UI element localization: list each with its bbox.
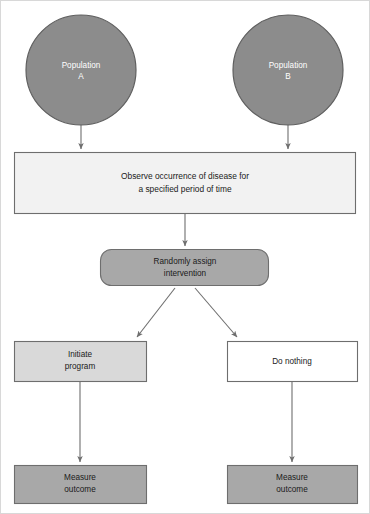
population-b-label-line1: Population	[269, 61, 308, 70]
randomly-assign-intervention-box	[101, 250, 269, 286]
observe-disease-box	[15, 153, 356, 214]
flowchart: Population A Population B Observe occurr…	[0, 0, 370, 514]
population-a-label-line2: A	[78, 72, 84, 81]
do-nothing-label: Do nothing	[272, 357, 312, 366]
population-a-label-line1: Population	[62, 61, 101, 70]
measure-outcome-right-label-line1: Measure	[276, 473, 308, 482]
connector-randomize-to-do-nothing	[195, 288, 237, 337]
randomly-assign-label-line1: Randomly assign	[154, 257, 217, 266]
connector-randomize-to-initiate-program	[137, 288, 175, 337]
node-initiate-program[interactable]: Initiate program	[15, 342, 147, 382]
node-measure-outcome-right[interactable]: Measure outcome	[228, 466, 358, 504]
node-randomly-assign-intervention[interactable]: Randomly assign intervention	[101, 250, 269, 286]
diagram-canvas: Population A Population B Observe occurr…	[0, 0, 370, 514]
node-observe-disease[interactable]: Observe occurrence of disease for a spec…	[15, 153, 356, 214]
node-measure-outcome-left[interactable]: Measure outcome	[15, 466, 147, 504]
node-population-b[interactable]: Population B	[233, 15, 343, 125]
observe-disease-label-line2: a specified period of time	[138, 184, 231, 194]
node-do-nothing[interactable]: Do nothing	[228, 342, 358, 382]
observe-disease-label-line1: Observe occurrence of disease for	[121, 171, 249, 181]
initiate-program-label-line2: program	[65, 362, 96, 371]
measure-outcome-left-label-line2: outcome	[64, 485, 96, 494]
measure-outcome-right-label-line2: outcome	[276, 485, 308, 494]
measure-outcome-left-label-line1: Measure	[64, 473, 96, 482]
initiate-program-label-line1: Initiate	[68, 350, 93, 359]
population-b-label-line2: B	[285, 72, 291, 81]
randomly-assign-label-line2: intervention	[164, 269, 207, 278]
node-population-a[interactable]: Population A	[26, 15, 136, 125]
